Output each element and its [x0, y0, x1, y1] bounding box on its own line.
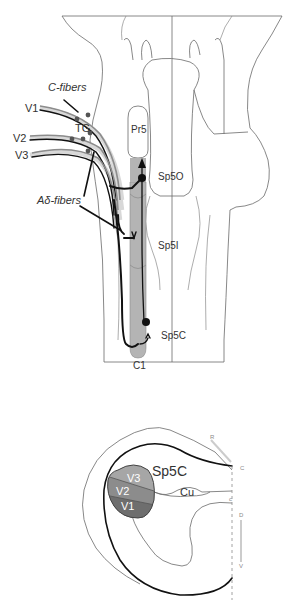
- sp5c-section-label: Sp5C: [152, 463, 187, 479]
- v3-branch-label: V3: [15, 149, 28, 161]
- trigeminal-diagram: C-fibers Aδ-fibers V1 V2 V3 TG Pr5 Sp5O …: [0, 0, 287, 603]
- v1-map-label: V1: [121, 500, 134, 512]
- cross-section: [83, 428, 242, 600]
- sp5c-neuron: [142, 318, 150, 326]
- brainstem-outline: [62, 16, 282, 362]
- v2-branch-label: V2: [13, 132, 26, 144]
- ventral-label: V: [239, 563, 243, 569]
- ganglion-cell: [86, 113, 91, 118]
- tg-label: TG: [75, 122, 90, 134]
- sp5c-label: Sp5C: [161, 330, 186, 341]
- a-delta-fibers-label: Aδ-fibers: [36, 194, 82, 206]
- ganglion-cell: [75, 117, 80, 122]
- v1-branch-label: V1: [25, 102, 38, 114]
- rostral-label: R: [210, 434, 215, 440]
- ganglion-cell: [86, 149, 91, 154]
- pr5-label: Pr5: [131, 124, 147, 135]
- ganglion-cell: [81, 137, 86, 142]
- v3-map-label: V3: [127, 472, 140, 484]
- c1-label: C1: [133, 360, 146, 371]
- caudal-label: C: [240, 465, 245, 471]
- ganglion-cell: [70, 137, 75, 142]
- dorsal-label: D: [239, 512, 244, 518]
- cu-label: Cu: [180, 486, 194, 498]
- c-fibers-label: C-fibers: [48, 81, 87, 93]
- somatotopic-map: [100, 450, 170, 530]
- v2-map-label: V2: [116, 485, 129, 497]
- c-small-label: c: [229, 496, 232, 502]
- sp5o-label: Sp5O: [158, 171, 184, 182]
- sp5i-label: Sp5I: [158, 240, 179, 251]
